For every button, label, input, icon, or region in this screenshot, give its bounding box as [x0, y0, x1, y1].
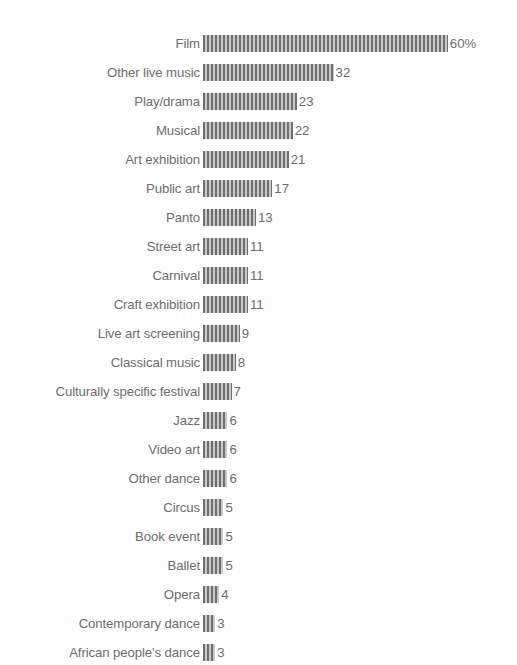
- bar-area: 11: [203, 267, 517, 284]
- bar-row: African people's dance3: [0, 638, 517, 665]
- value-label: 5: [223, 530, 232, 543]
- bar-area: 9: [203, 325, 517, 342]
- category-label: Circus: [0, 501, 203, 514]
- bar-area: 3: [203, 615, 517, 632]
- bar-row: Live art screening9: [0, 319, 517, 348]
- bar-area: 11: [203, 238, 517, 255]
- value-label: 6: [227, 443, 236, 456]
- bar-row: Craft exhibition11: [0, 290, 517, 319]
- category-label: Street art: [0, 240, 203, 253]
- bar-row: Public art17: [0, 174, 517, 203]
- bar-row: Classical music8: [0, 348, 517, 377]
- bar-row: Carnival11: [0, 261, 517, 290]
- category-label: Opera: [0, 588, 203, 601]
- bar: [203, 122, 293, 139]
- bar-area: 5: [203, 528, 517, 545]
- bar-area: 5: [203, 499, 517, 516]
- category-label: Musical: [0, 124, 203, 137]
- category-label: Carnival: [0, 269, 203, 282]
- bar-area: 23: [203, 93, 517, 110]
- category-label: Art exhibition: [0, 153, 203, 166]
- value-label: 23: [297, 95, 314, 108]
- bar-row: Panto13: [0, 203, 517, 232]
- value-label: 11: [248, 269, 264, 282]
- bar: [203, 557, 223, 574]
- value-label: 8: [236, 356, 245, 369]
- bar: [203, 151, 289, 168]
- bar: [203, 615, 215, 632]
- bar-row: Book event5: [0, 522, 517, 551]
- bar: [203, 296, 248, 313]
- bar: [203, 441, 227, 458]
- bar-area: 21: [203, 151, 517, 168]
- bar-area: 8: [203, 354, 517, 371]
- bar: [203, 383, 232, 400]
- category-label: Live art screening: [0, 327, 203, 340]
- bar: [203, 470, 227, 487]
- bar: [203, 209, 256, 226]
- bar: [203, 412, 227, 429]
- bar-area: 32: [203, 64, 517, 81]
- bar-row: Art exhibition21: [0, 145, 517, 174]
- category-label: Other dance: [0, 472, 203, 485]
- bar-row: Street art11: [0, 232, 517, 261]
- category-label: Contemporary dance: [0, 617, 203, 630]
- value-label: 11: [248, 240, 264, 253]
- value-label: 4: [219, 588, 228, 601]
- category-label: Culturally specific festival: [0, 385, 203, 398]
- value-label: 11: [248, 298, 264, 311]
- value-label: 3: [215, 617, 224, 630]
- category-label: Ballet: [0, 559, 203, 572]
- bar-row: Play/drama23: [0, 87, 517, 116]
- bar-row: Video art6: [0, 435, 517, 464]
- bar: [203, 325, 240, 342]
- bar-area: 3: [203, 644, 517, 661]
- value-label: 6: [227, 414, 236, 427]
- value-label: 5: [223, 559, 232, 572]
- category-label: African people's dance: [0, 646, 203, 659]
- value-label: 6: [227, 472, 236, 485]
- category-label: Public art: [0, 182, 203, 195]
- bar-row: Ballet5: [0, 551, 517, 580]
- value-label: 5: [223, 501, 232, 514]
- value-label: 32: [334, 66, 351, 79]
- value-label: 3: [215, 646, 224, 659]
- bar-row: Circus5: [0, 493, 517, 522]
- bar: [203, 267, 248, 284]
- bar-row: Other dance6: [0, 464, 517, 493]
- category-label: Film: [0, 37, 203, 50]
- bar: [203, 528, 223, 545]
- bar-area: 6: [203, 412, 517, 429]
- value-label: 60%: [448, 37, 476, 50]
- bar: [203, 586, 219, 603]
- value-label: 9: [240, 327, 249, 340]
- bar-row: Musical22: [0, 116, 517, 145]
- bar-area: 6: [203, 470, 517, 487]
- bar-area: 6: [203, 441, 517, 458]
- bar-area: 11: [203, 296, 517, 313]
- value-label: 17: [272, 182, 289, 195]
- category-label: Play/drama: [0, 95, 203, 108]
- bar: [203, 644, 215, 661]
- bar-area: 17: [203, 180, 517, 197]
- category-label: Other live music: [0, 66, 203, 79]
- bar-area: 60%: [203, 35, 517, 52]
- bar-area: 5: [203, 557, 517, 574]
- bar-row: Contemporary dance3: [0, 609, 517, 638]
- value-label: 13: [256, 211, 273, 224]
- category-label: Video art: [0, 443, 203, 456]
- category-label: Panto: [0, 211, 203, 224]
- bar-row: Other live music32: [0, 58, 517, 87]
- bar: [203, 354, 236, 371]
- bar: [203, 64, 334, 81]
- category-label: Classical music: [0, 356, 203, 369]
- value-label: 21: [289, 153, 306, 166]
- bar-area: 4: [203, 586, 517, 603]
- value-label: 7: [232, 385, 241, 398]
- category-label: Craft exhibition: [0, 298, 203, 311]
- bar-row: Jazz6: [0, 406, 517, 435]
- bar-area: 13: [203, 209, 517, 226]
- bar: [203, 238, 248, 255]
- category-label: Book event: [0, 530, 203, 543]
